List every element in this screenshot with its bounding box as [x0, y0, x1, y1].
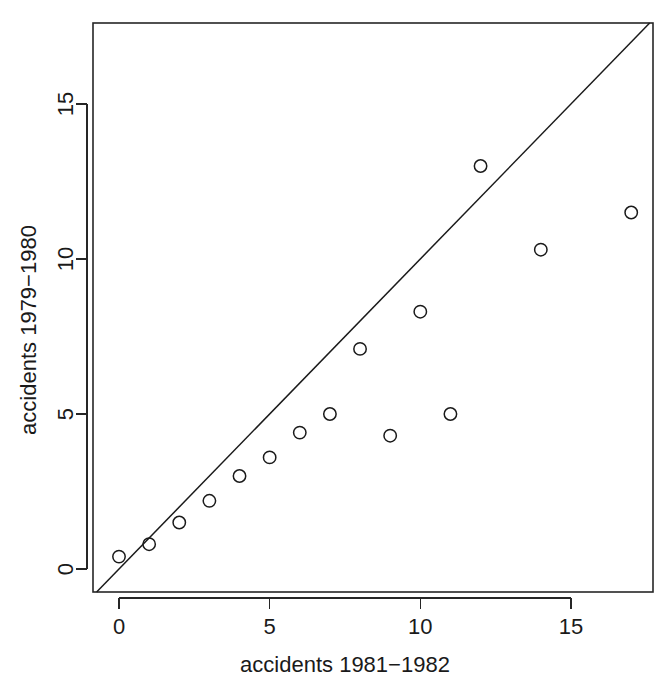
reference-line-y-equals-x — [97, 23, 650, 592]
data-point — [263, 451, 275, 463]
data-points — [113, 160, 638, 563]
plot-canvas: 051015 051015 accidents 1981−1982 accide… — [0, 0, 671, 697]
data-point — [294, 426, 306, 438]
data-point — [414, 306, 426, 318]
y-axis-ticks — [76, 104, 87, 569]
x-axis-title: accidents 1981−1982 — [240, 652, 450, 677]
data-point — [173, 516, 185, 528]
scatter-plot-figure: 051015 051015 accidents 1981−1982 accide… — [0, 0, 671, 697]
x-tick-label-0: 0 — [113, 614, 125, 639]
y-tick-label-0: 0 — [53, 563, 78, 575]
x-tick-label-5: 5 — [264, 614, 276, 639]
data-point — [113, 550, 125, 562]
y-axis-tick-labels: 051015 — [53, 92, 78, 575]
x-tick-label-15: 15 — [559, 614, 583, 639]
y-tick-label-10: 10 — [53, 247, 78, 271]
data-point — [625, 206, 637, 218]
data-point — [535, 244, 547, 256]
x-axis-tick-labels: 051015 — [113, 614, 583, 639]
y-tick-label-5: 5 — [53, 408, 78, 420]
data-point — [324, 408, 336, 420]
data-point — [233, 470, 245, 482]
x-axis-ticks — [119, 598, 571, 609]
x-tick-label-10: 10 — [408, 614, 432, 639]
y-tick-label-15: 15 — [53, 92, 78, 116]
data-point — [203, 495, 215, 507]
data-point — [474, 160, 486, 172]
data-point — [384, 430, 396, 442]
y-axis-title: accidents 1979−1980 — [16, 225, 41, 435]
data-point — [444, 408, 456, 420]
identity-reference-line — [97, 23, 650, 592]
data-point — [143, 538, 155, 550]
data-point — [354, 343, 366, 355]
